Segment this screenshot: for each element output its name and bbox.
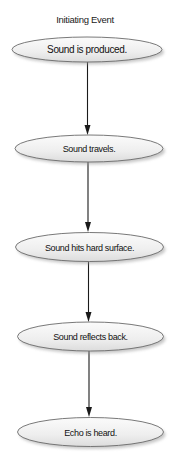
node-sound-produced: Sound is produced. <box>12 37 164 65</box>
diagram-title: Initiating Event <box>56 14 114 25</box>
node-label: Sound travels. <box>63 144 116 154</box>
node-label: Sound is produced. <box>47 44 127 55</box>
arrow-3 <box>86 262 92 322</box>
node-sound-travels: Sound travels. <box>15 135 165 165</box>
node-label: Sound hits hard surface. <box>45 243 134 253</box>
node-sound-hits-surface: Sound hits hard surface. <box>16 233 166 265</box>
arrow-4 <box>86 351 92 417</box>
arrow-2 <box>85 162 91 232</box>
flow-diagram: Initiating Event Sound is produced. Soun… <box>0 0 170 458</box>
node-sound-reflects: Sound reflects back. <box>18 322 166 354</box>
node-label: Sound reflects back. <box>53 332 128 342</box>
arrow-1 <box>85 62 91 135</box>
node-label: Echo is heard. <box>64 428 117 438</box>
node-echo-heard: Echo is heard. <box>18 418 166 450</box>
